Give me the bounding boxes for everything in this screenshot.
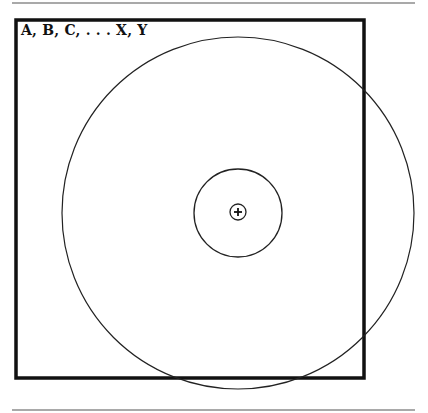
universal-set-rectangle xyxy=(16,20,364,378)
set-label: A, B, C, . . . X, Y xyxy=(21,22,148,38)
plus-icon xyxy=(234,208,242,216)
diagram-canvas xyxy=(0,0,428,413)
